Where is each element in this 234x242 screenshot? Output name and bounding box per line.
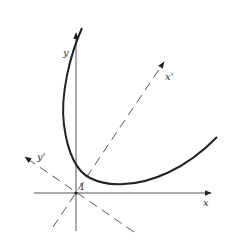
- x-axis-label: x: [203, 197, 209, 208]
- unit-point: [86, 175, 89, 178]
- x-prime-axis-label: x': [165, 71, 173, 82]
- parabola-curve: [63, 28, 217, 184]
- y-axis-label: y: [62, 47, 69, 58]
- diagram-figure: y x x' y' 1: [0, 0, 234, 242]
- unit-label: 1: [79, 181, 85, 192]
- y-prime-axis-label: y': [36, 151, 45, 162]
- diagram-canvas: y x x' y' 1: [0, 0, 234, 242]
- origin-point: [74, 191, 77, 194]
- x-prime-axis: [53, 62, 164, 227]
